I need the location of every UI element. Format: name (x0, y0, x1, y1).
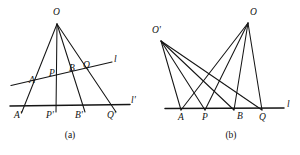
ray-O-to-P-prime (56, 24, 57, 112)
ray-Oprime-to-P-panel-b (161, 41, 205, 110)
panel-a-diagram: O A P B Q A' P' B' Q' l l' (a) (0, 0, 300, 155)
label-line-l-panel-a: l (114, 54, 117, 64)
ray-Oprime-to-A-panel-b (161, 41, 181, 110)
label-Q-panel-a: Q (83, 60, 90, 70)
label-A-panel-b: A (177, 112, 184, 122)
panel-b-labels: O O' A P B Q l (152, 7, 290, 122)
caption-b: (b) (225, 130, 236, 141)
caption-a: (a) (65, 130, 76, 141)
ray-O-to-A-panel-b (181, 23, 248, 110)
panel-b-rays (161, 23, 284, 110)
label-O-panel-b: O (250, 7, 257, 17)
ray-Oprime-to-B-panel-b (161, 41, 234, 110)
label-P-prime-panel-a: P' (45, 110, 55, 120)
label-B-prime-panel-a: B' (75, 110, 84, 120)
label-B-panel-b: B (237, 111, 243, 121)
panel-a-labels: O A P B Q A' P' B' Q' l l' (13, 7, 137, 120)
label-P-panel-a: P (48, 68, 55, 78)
line-l (11, 62, 112, 86)
label-line-l-prime-panel-a: l' (131, 95, 137, 105)
label-A-panel-a: A (28, 75, 35, 85)
ray-Oprime-to-Q-panel-b (161, 41, 262, 110)
ray-O-to-P-panel-b (205, 23, 248, 110)
label-O-prime-panel-b: O' (152, 25, 162, 35)
label-B-panel-a: B (69, 63, 75, 73)
label-Q-prime-panel-a: Q' (107, 110, 117, 120)
label-line-l-panel-b: l (287, 99, 290, 109)
label-A-prime-panel-a: A' (13, 110, 23, 120)
label-Q-panel-b: Q (259, 112, 266, 122)
ray-O-to-Q-panel-b (248, 23, 262, 110)
figure-root: O A P B Q A' P' B' Q' l l' (a) (0, 0, 300, 155)
label-P-panel-b: P (201, 112, 208, 122)
label-O-panel-a: O (53, 7, 60, 17)
